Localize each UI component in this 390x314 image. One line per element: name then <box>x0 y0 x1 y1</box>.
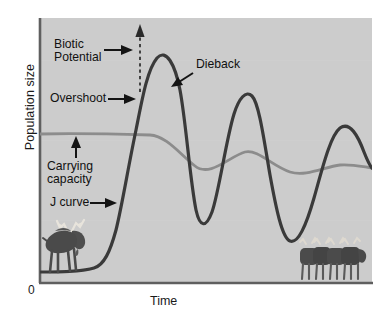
annotation-overshoot: Overshoot <box>50 92 106 105</box>
annotation-j-curve: J curve <box>50 196 89 209</box>
annotation-carrying-capacity: Carrying capacity <box>47 160 93 185</box>
y-axis-label: Population size <box>23 47 37 167</box>
x-axis-label: Time <box>150 294 177 308</box>
origin-label: 0 <box>28 283 35 297</box>
annotation-dieback: Dieback <box>196 58 240 71</box>
annotation-biotic-potential: Biotic Potential <box>54 38 101 63</box>
population-growth-figure: Population size Time 0 Biotic Potential … <box>0 0 390 314</box>
